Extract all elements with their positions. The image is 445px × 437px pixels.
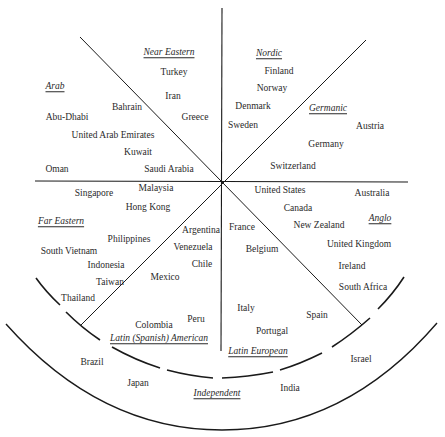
country-label: Abu-Dhabi [46, 113, 89, 123]
country-label: Switzerland [270, 162, 315, 172]
vertical-divider [221, 8, 222, 351]
country-label: Sweden [228, 121, 258, 131]
country-label: Mexico [150, 273, 179, 283]
country-label: United States [255, 186, 306, 196]
country-label: Germany [308, 140, 343, 150]
country-label: Spain [306, 311, 328, 321]
country-label: Denmark [235, 102, 270, 112]
cluster-label-far-eastern: Far Eastern [38, 217, 84, 227]
country-label: Thailand [61, 294, 95, 304]
country-label: Hong Kong [126, 203, 171, 213]
country-label: South Africa [339, 283, 387, 293]
country-label: Iran [165, 92, 180, 102]
cluster-label-latin-european: Latin European [228, 347, 288, 357]
country-label: Chile [192, 260, 213, 270]
cluster-label-latin-american: Latin (Spanish) American [110, 334, 208, 344]
country-label: France [229, 223, 255, 233]
country-label: Indonesia [88, 261, 125, 271]
country-label: Argentina [182, 226, 220, 236]
country-label: Taiwan [96, 278, 124, 288]
cluster-label-independent: Independent [194, 389, 241, 399]
country-label: Portugal [256, 327, 288, 337]
country-label: Colombia [135, 321, 172, 331]
cluster-label-arab: Arab [46, 82, 65, 92]
country-label: India [280, 384, 300, 394]
country-label: Ireland [339, 262, 366, 272]
country-label: Bahrain [112, 103, 142, 113]
country-label: Japan [127, 379, 149, 389]
country-label: Peru [187, 315, 204, 325]
country-label: Singapore [75, 189, 114, 199]
country-label: Canada [284, 204, 313, 214]
country-label: Israel [350, 355, 371, 365]
country-label: Venezuela [173, 243, 212, 253]
cluster-label-near-eastern: Near Eastern [144, 48, 195, 58]
country-label: United Kingdom [327, 240, 391, 250]
country-label: Philippines [108, 235, 151, 245]
country-label: Finland [264, 67, 293, 77]
country-label: South Vietnam [41, 247, 98, 257]
country-label: Brazil [80, 358, 103, 368]
country-label: Malaysia [139, 184, 174, 194]
country-label: Oman [45, 165, 68, 175]
country-label: Greece [182, 113, 209, 123]
country-label: New Zealand [294, 221, 345, 231]
country-label: Norway [257, 84, 288, 94]
cluster-label-anglo: Anglo [369, 214, 392, 224]
country-label: Kuwait [124, 148, 152, 158]
cluster-label-germanic: Germanic [309, 104, 347, 114]
country-label: Austria [356, 122, 384, 132]
country-label: Belgium [246, 245, 279, 255]
country-label: Saudi Arabia [144, 165, 193, 175]
country-label: Australia [355, 189, 390, 199]
country-label: United Arab Emirates [72, 131, 155, 141]
country-cluster-diagram: Arab Near Eastern Nordic Germanic Anglo … [0, 0, 445, 437]
cluster-label-nordic: Nordic [256, 49, 282, 59]
country-label: Italy [237, 304, 254, 314]
country-label: Turkey [160, 68, 187, 78]
